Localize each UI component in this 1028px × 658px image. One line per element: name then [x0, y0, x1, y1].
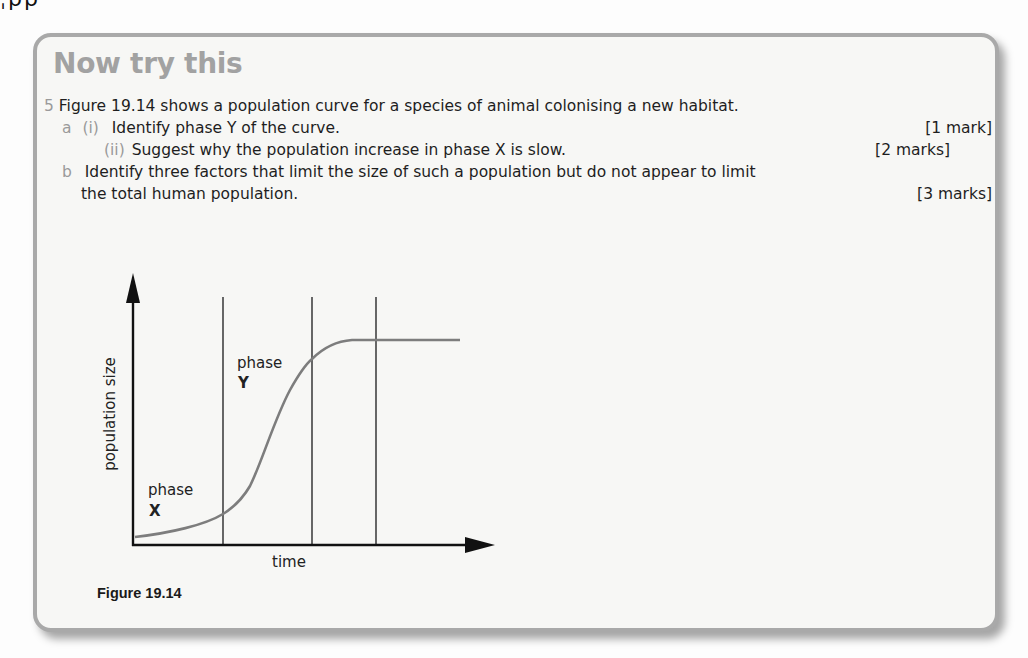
part-a-i-text: Identify phase Y of the curve.	[112, 119, 340, 137]
part-sub-ii: (ii)	[104, 141, 125, 159]
marks-b: [3 marks]	[917, 184, 992, 204]
question-part-b: b Identify three factors that limit the …	[62, 162, 756, 182]
part-sub-i: (i)	[82, 119, 98, 137]
phase-y-letter: Y	[238, 374, 249, 392]
question-stem: 5 Figure 19.14 shows a population curve …	[44, 96, 739, 116]
part-letter-a: a	[62, 119, 72, 137]
cut-off-text-fragment: ˌpp	[0, 0, 40, 11]
question-stem-text: Figure 19.14 shows a population curve fo…	[59, 97, 739, 115]
box-title: Now try this	[53, 47, 242, 80]
part-b-text-line2: the total human population.	[81, 184, 298, 204]
question-number: 5	[44, 97, 54, 115]
page: ˌpp Now try this 5 Figure 19.14 shows a …	[0, 0, 1028, 658]
marks-a-i: [1 mark]	[925, 118, 992, 138]
marks-a-ii: [2 marks]	[875, 140, 950, 160]
phase-x-letter: X	[149, 502, 161, 520]
question-part-a-ii: (ii) Suggest why the population increase…	[104, 140, 566, 160]
figure-caption: Figure 19.14	[97, 585, 182, 601]
question-part-a-i: a (i) Identify phase Y of the curve.	[62, 118, 340, 138]
y-axis-label: population size	[101, 344, 119, 484]
part-letter-b: b	[62, 163, 72, 181]
x-axis-label: time	[272, 553, 306, 571]
part-a-ii-text: Suggest why the population increase in p…	[132, 141, 566, 159]
phase-y-word: phase	[237, 354, 282, 372]
phase-x-word: phase	[148, 481, 193, 499]
part-b-text-line1: Identify three factors that limit the si…	[85, 163, 756, 181]
